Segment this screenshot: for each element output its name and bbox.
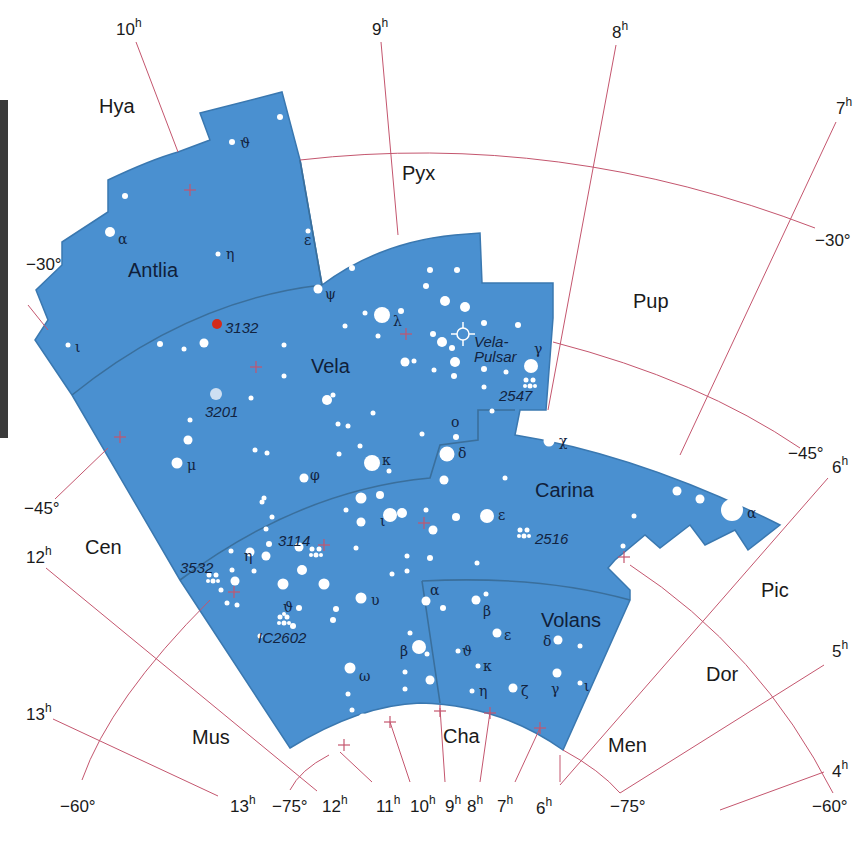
svg-text:κ: κ xyxy=(483,658,492,674)
svg-text:η: η xyxy=(244,548,252,564)
label-hya: Hya xyxy=(99,95,135,117)
label-pic: Pic xyxy=(761,579,789,601)
label-vela: Vela xyxy=(311,355,351,377)
label-mus: Mus xyxy=(192,726,230,748)
svg-text:−45°: −45° xyxy=(24,499,60,518)
planetary-nebula-3132-icon xyxy=(212,319,222,329)
svg-text:ο: ο xyxy=(451,414,459,430)
svg-text:8h: 8h xyxy=(612,19,628,42)
label-pyx: Pyx xyxy=(402,162,435,184)
svg-text:ϑ: ϑ xyxy=(240,135,250,151)
svg-text:δ: δ xyxy=(543,633,551,649)
svg-text:γ: γ xyxy=(551,681,559,697)
svg-text:−30°: −30° xyxy=(26,255,62,274)
svg-text:ζ: ζ xyxy=(521,683,529,699)
svg-text:10h: 10h xyxy=(410,793,436,816)
star-chart: Antlia Vela Carina Volans Hya Pyx Pup Ce… xyxy=(0,0,866,841)
svg-text:λ: λ xyxy=(393,313,402,329)
label-volans: Volans xyxy=(541,609,601,631)
label-dor: Dor xyxy=(706,663,739,685)
svg-text:β: β xyxy=(483,603,491,619)
svg-text:8h: 8h xyxy=(467,793,483,816)
svg-text:μ: μ xyxy=(187,457,196,473)
svg-text:δ: δ xyxy=(458,445,466,461)
svg-text:12h: 12h xyxy=(322,793,348,816)
svg-text:6h: 6h xyxy=(536,795,552,818)
svg-text:ε: ε xyxy=(504,627,511,643)
svg-text:η: η xyxy=(479,683,487,699)
svg-text:−45°: −45° xyxy=(788,444,824,463)
svg-text:9h: 9h xyxy=(372,16,388,39)
svg-text:ϑ: ϑ xyxy=(283,599,293,615)
svg-text:η: η xyxy=(226,246,234,262)
label-ngc-3132: 3132 xyxy=(225,319,259,336)
label-cha: Cha xyxy=(443,725,481,747)
label-cen: Cen xyxy=(85,536,122,558)
svg-text:13h: 13h xyxy=(26,701,52,724)
svg-text:κ: κ xyxy=(382,452,391,468)
svg-text:φ: φ xyxy=(310,467,320,483)
svg-text:7h: 7h xyxy=(836,95,852,118)
svg-text:β: β xyxy=(400,643,408,659)
label-ngc-2547: 2547 xyxy=(498,387,533,404)
label-ic-2602: IC2602 xyxy=(258,629,307,646)
svg-text:4h: 4h xyxy=(832,758,848,781)
svg-text:5h: 5h xyxy=(832,638,848,661)
svg-text:−75°: −75° xyxy=(610,797,646,816)
svg-text:−60°: −60° xyxy=(60,797,96,816)
svg-text:ι: ι xyxy=(380,513,386,529)
svg-text:−30°: −30° xyxy=(815,231,851,250)
svg-text:11h: 11h xyxy=(376,793,400,816)
galaxy-cluster-3201-icon xyxy=(210,388,222,400)
svg-text:α: α xyxy=(118,231,128,247)
label-carina: Carina xyxy=(535,479,595,501)
svg-text:ι: ι xyxy=(75,339,81,355)
label-ngc-3532: 3532 xyxy=(180,559,214,576)
svg-text:α: α xyxy=(747,505,757,521)
svg-text:ω: ω xyxy=(359,668,370,684)
svg-text:α: α xyxy=(430,582,440,598)
svg-text:13h: 13h xyxy=(230,793,256,816)
label-ngc-2516: 2516 xyxy=(534,530,569,547)
svg-text:γ: γ xyxy=(534,341,542,357)
svg-text:ϑ: ϑ xyxy=(462,643,472,659)
svg-text:9h: 9h xyxy=(445,793,461,816)
label-antlia: Antlia xyxy=(128,259,179,281)
label-vela-pulsar-line2: Pulsar xyxy=(474,348,518,365)
svg-text:χ: χ xyxy=(559,433,568,449)
svg-text:ψ: ψ xyxy=(325,286,336,302)
label-ngc-3201: 3201 xyxy=(205,403,238,420)
svg-text:ε: ε xyxy=(498,507,505,523)
svg-text:12h: 12h xyxy=(26,544,52,567)
svg-text:10h: 10h xyxy=(116,16,142,39)
svg-text:−60°: −60° xyxy=(812,797,848,816)
svg-text:7h: 7h xyxy=(497,793,513,816)
svg-text:6h: 6h xyxy=(832,454,848,477)
svg-text:−75°: −75° xyxy=(272,797,308,816)
label-pup: Pup xyxy=(633,290,669,312)
svg-text:ι: ι xyxy=(584,678,590,694)
label-ngc-3114: 3114 xyxy=(278,532,310,549)
svg-text:ε: ε xyxy=(304,232,311,248)
label-men: Men xyxy=(608,734,647,756)
svg-text:υ: υ xyxy=(371,592,380,608)
